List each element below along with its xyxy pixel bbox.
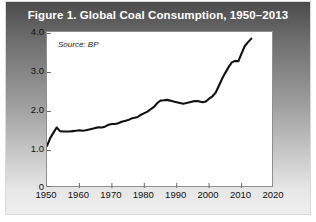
coal-consumption-line-chart <box>47 32 274 188</box>
figure-title: Figure 1. Global Coal Consumption, 1950–… <box>6 9 310 21</box>
data-series-line <box>47 39 251 146</box>
source-note: Source: BP <box>58 40 98 49</box>
plot-area: Source: BP <box>46 31 273 187</box>
axis-tick-marks <box>47 34 242 189</box>
y-tick-label: 4.0 <box>2 27 44 37</box>
y-tick-label: 2.0 <box>2 105 44 115</box>
y-tick-label: 3.0 <box>2 66 44 76</box>
figure-root: Figure 1. Global Coal Consumption, 1950–… <box>0 0 316 222</box>
y-axis-ticks: 4.0 3.0 2.0 1.0 0 <box>0 31 44 187</box>
x-tick-label: 2020 <box>253 190 293 200</box>
x-axis-ticks: 1950 1960 1970 1980 1990 2000 2010 2020 <box>46 190 273 206</box>
y-tick-label: 1.0 <box>2 144 44 154</box>
